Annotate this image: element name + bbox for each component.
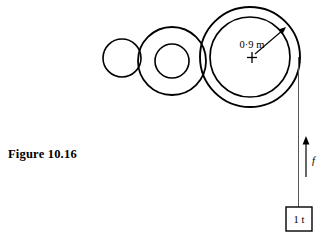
small-pulley-circle xyxy=(103,39,141,77)
middle-pulley-outer-circle xyxy=(138,27,206,95)
figure-caption: Figure 10.16 xyxy=(8,147,77,162)
figure-container: 0·9 m f 1 t Figure 10.16 xyxy=(0,0,330,235)
force-label: f xyxy=(312,155,317,166)
load-label: 1 t xyxy=(294,214,305,225)
middle-pulley-inner-circle xyxy=(155,44,189,78)
force-arrow-icon xyxy=(303,136,310,177)
pulley-diagram: 0·9 m f 1 t xyxy=(0,0,330,235)
radius-dimension-label: 0·9 m xyxy=(240,39,265,50)
